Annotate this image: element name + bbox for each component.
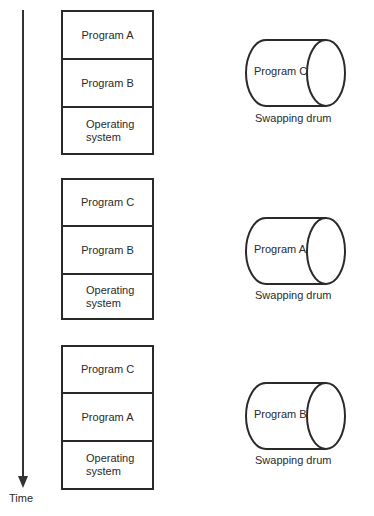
swapping-drum-2: Program A <box>244 216 348 286</box>
arrow-down-icon <box>18 476 28 488</box>
os-slot: Operating system <box>63 108 152 153</box>
memory-slot: Program B <box>63 227 152 275</box>
memory-slot: Program A <box>63 394 152 442</box>
os-slot: Operating system <box>63 442 152 488</box>
drum-content: Program C <box>254 65 307 77</box>
time-arrow-shaft <box>22 10 24 480</box>
memory-slot: Program C <box>63 180 152 227</box>
time-label: Time <box>9 492 33 504</box>
os-slot: Operating system <box>63 275 152 318</box>
drum-content: Program B <box>254 408 307 420</box>
memory-stack-2: Program C Program B Operating system <box>61 178 154 320</box>
swapping-drum-1: Program C <box>244 38 348 108</box>
memory-slot: Program A <box>63 12 152 60</box>
drum-content: Program A <box>254 243 306 255</box>
memory-stack-3: Program C Program A Operating system <box>61 345 154 490</box>
swapping-drum-3: Program B <box>244 381 348 451</box>
memory-stack-1: Program A Program B Operating system <box>61 10 154 155</box>
memory-slot: Program C <box>63 347 152 394</box>
drum-caption: Swapping drum <box>255 289 331 301</box>
drum-caption: Swapping drum <box>255 454 331 466</box>
memory-slot: Program B <box>63 60 152 108</box>
drum-caption: Swapping drum <box>255 112 331 124</box>
